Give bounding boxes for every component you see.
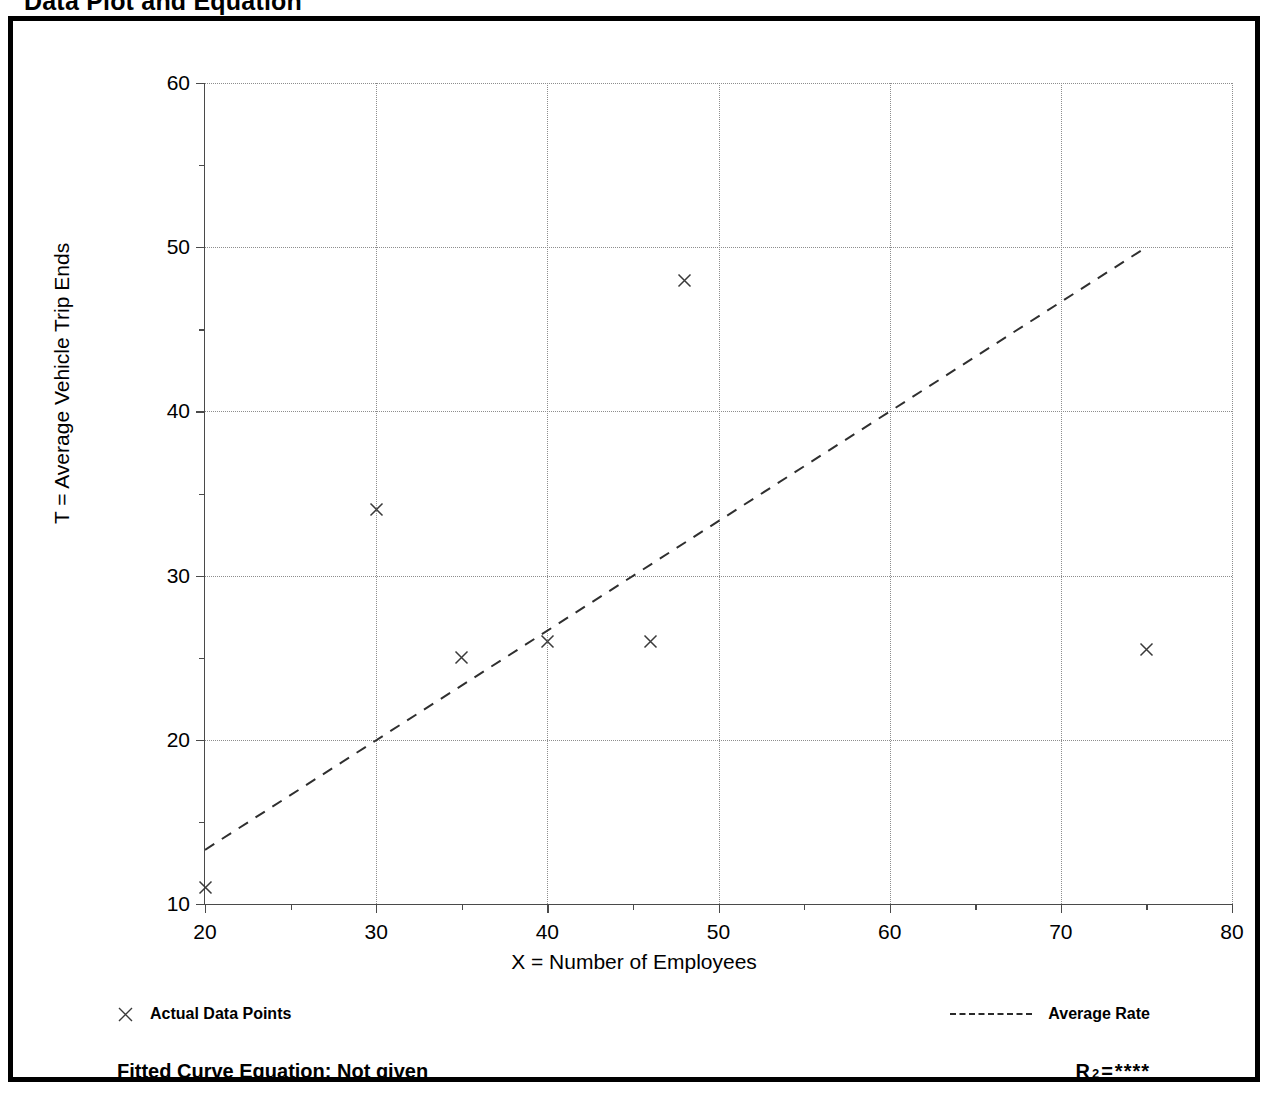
y-axis-tick-label: 20 <box>167 728 190 752</box>
x-axis-tick-label: 30 <box>364 920 387 944</box>
y-axis-tick-label: 10 <box>167 892 190 916</box>
data-point-marker <box>642 633 659 650</box>
legend-entry-actual-data-points: Actual Data Points <box>117 1005 291 1023</box>
x-marker-icon <box>117 1006 134 1023</box>
x-axis-tick-label: 20 <box>193 920 216 944</box>
x-axis-tick <box>1061 904 1062 913</box>
x-axis-tick <box>547 904 548 913</box>
y-axis-tick <box>196 83 205 84</box>
average-rate-line <box>205 247 1146 850</box>
x-axis-tick-label: 60 <box>878 920 901 944</box>
chart-frame: 10203040506020304050607080 T = Average V… <box>8 16 1260 1082</box>
y-axis-tick-label: 40 <box>167 399 190 423</box>
x-axis-minor-tick <box>1146 904 1147 910</box>
plot-area: 10203040506020304050607080 <box>204 83 1232 905</box>
x-axis-tick <box>205 904 206 913</box>
trend-line-layer <box>205 83 1232 904</box>
data-point-marker <box>453 649 470 666</box>
r-squared-symbol: R <box>1075 1060 1089 1083</box>
chart-plot: 10203040506020304050607080 <box>204 83 1232 905</box>
legend-label-average-rate: Average Rate <box>1048 1005 1150 1023</box>
data-point-marker <box>197 879 214 896</box>
y-axis-tick <box>196 576 205 577</box>
x-axis-minor-tick <box>975 904 976 910</box>
data-point-marker <box>1138 641 1155 658</box>
legend-entry-average-rate: Average Rate <box>950 1005 1150 1023</box>
y-axis-tick-label: 30 <box>167 564 190 588</box>
page-title: Data Plot and Equation <box>24 0 302 16</box>
y-axis-tick <box>196 411 205 412</box>
legend-label-actual-data-points: Actual Data Points <box>150 1005 291 1023</box>
chart-legend: Actual Data Points Average Rate <box>12 1005 1256 1037</box>
x-axis-tick-label: 50 <box>707 920 730 944</box>
x-axis-tick-label: 40 <box>536 920 559 944</box>
x-axis-tick <box>1232 904 1233 913</box>
y-axis-tick-label: 60 <box>167 71 190 95</box>
dashed-line-icon <box>950 1013 1032 1015</box>
x-axis-tick <box>890 904 891 913</box>
fitted-curve-equation: Fitted Curve Equation: Not given <box>117 1060 428 1083</box>
y-axis-tick-label: 50 <box>167 235 190 259</box>
data-point-marker <box>676 272 693 289</box>
x-axis-minor-tick <box>291 904 292 910</box>
y-axis-title: T = Average Vehicle Trip Ends <box>50 243 74 524</box>
chart-footer: Fitted Curve Equation: Not given R2 = **… <box>12 1060 1256 1094</box>
y-axis-tick <box>196 247 205 248</box>
x-axis-minor-tick <box>462 904 463 910</box>
x-axis-title: X = Number of Employees <box>12 950 1256 974</box>
r-squared-value: **** <box>1115 1060 1150 1083</box>
x-axis-tick <box>376 904 377 913</box>
x-axis-minor-tick <box>804 904 805 910</box>
y-axis-tick <box>196 904 205 905</box>
y-axis-tick <box>196 740 205 741</box>
data-point-marker <box>539 633 556 650</box>
data-point-marker <box>368 501 385 518</box>
x-axis-tick-label: 80 <box>1220 920 1243 944</box>
r-squared-block: R2 = **** <box>1075 1060 1150 1083</box>
x-axis-minor-tick <box>633 904 634 910</box>
r-squared-equals: = <box>1101 1060 1113 1083</box>
x-axis-tick-label: 70 <box>1049 920 1072 944</box>
r-squared-exponent: 2 <box>1092 1066 1099 1081</box>
x-axis-tick <box>719 904 720 913</box>
